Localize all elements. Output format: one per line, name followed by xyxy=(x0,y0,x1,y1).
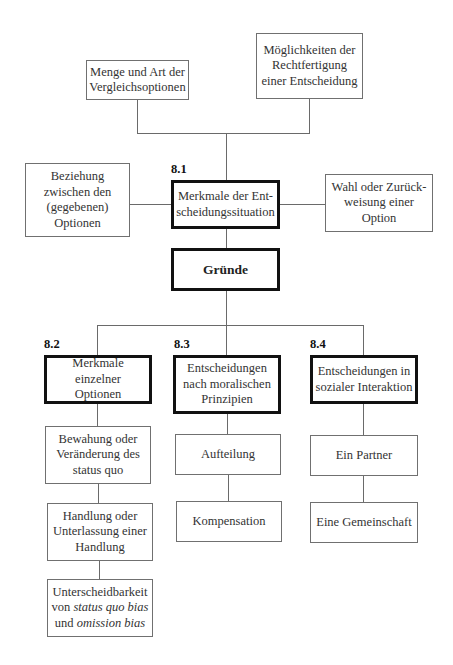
node-text: Bewahung oder xyxy=(56,432,140,448)
node-text: nach moralischen xyxy=(183,377,271,393)
node-text: Kompensation xyxy=(193,514,266,530)
connector xyxy=(226,133,227,180)
node-merkmale-entscheidungssituation: Merkmale der Ent- scheidungssituation xyxy=(171,180,280,229)
node-text: weisung einer xyxy=(332,195,427,211)
node-moralische-prinzipien: Entscheidungen nach moralischen Prinzipi… xyxy=(173,355,281,414)
connector xyxy=(97,325,98,355)
node-handlung-unterlassung: Handlung oder Unterlassung einer Handlun… xyxy=(47,503,153,561)
node-text: Handlung oder xyxy=(53,509,147,525)
node-text: zwischen den xyxy=(44,185,112,201)
node-ein-partner: Ein Partner xyxy=(310,435,418,476)
node-text: Merkmale einzelner xyxy=(49,356,147,387)
node-text: Unterscheidbarkeit xyxy=(52,585,149,601)
node-text: status quo xyxy=(56,463,140,479)
node-text: sozialer Interaktion xyxy=(316,380,413,396)
connector xyxy=(363,475,364,502)
node-text: Unterlassung einer xyxy=(53,524,147,540)
node-text: einer Entscheidung xyxy=(261,74,357,90)
section-label-8-3: 8.3 xyxy=(174,337,190,352)
node-text: Veränderung des xyxy=(56,447,140,463)
node-text: Vergleichsoptionen xyxy=(89,80,185,96)
section-label-8-2: 8.2 xyxy=(44,337,60,352)
node-text: Aufteilung xyxy=(201,447,255,463)
section-label-8-4: 8.4 xyxy=(310,337,326,352)
node-text-italic: status quo bias xyxy=(73,600,148,614)
node-text: Entscheidungen xyxy=(183,361,271,377)
node-text: (gegebenen) xyxy=(44,200,112,216)
node-text: scheidungssituation xyxy=(176,205,275,221)
node-text: von status quo bias xyxy=(52,600,149,616)
node-text: Möglichkeiten der xyxy=(261,43,357,59)
node-text: Wahl oder Zurück- xyxy=(332,180,427,196)
node-unterscheidbarkeit: Unterscheidbarkeit von status quo bias u… xyxy=(47,579,153,637)
connector xyxy=(97,325,364,326)
connector xyxy=(137,99,138,134)
node-text: Ein Partner xyxy=(336,448,393,464)
connector xyxy=(98,483,99,503)
node-text: Handlung xyxy=(53,540,147,556)
connector xyxy=(228,474,229,501)
node-text: Rechtfertigung xyxy=(261,58,357,74)
node-text: Eine Gemeinschaft xyxy=(316,515,411,531)
node-beziehung: Beziehung zwischen den (gegebenen) Optio… xyxy=(25,163,130,237)
connector xyxy=(137,133,310,134)
node-merkmale-einzelner-optionen: Merkmale einzelner Optionen xyxy=(44,355,152,404)
node-text: Entscheidungen in xyxy=(316,364,413,380)
node-soziale-interaktion: Entscheidungen in sozialer Interaktion xyxy=(310,355,418,404)
node-text: Gründe xyxy=(203,262,248,278)
section-label-8-1: 8.1 xyxy=(171,162,187,177)
node-menge-und-art: Menge und Art der Vergleichsoptionen xyxy=(86,60,189,100)
node-eine-gemeinschaft: Eine Gemeinschaft xyxy=(310,502,418,543)
node-text: und omission bias xyxy=(52,616,149,632)
connector xyxy=(227,413,228,434)
node-wahl-zurueckweisung: Wahl oder Zurück- weisung einer Option xyxy=(325,174,433,232)
node-text: Optionen xyxy=(49,387,147,403)
node-aufteilung: Aufteilung xyxy=(175,434,281,475)
connector xyxy=(226,228,227,248)
connector xyxy=(279,204,325,205)
node-text-italic: omission bias xyxy=(77,616,145,630)
connector xyxy=(129,204,171,205)
node-text: Prinzipien xyxy=(183,392,271,408)
node-text: Menge und Art der xyxy=(89,65,185,81)
node-text: Beziehung xyxy=(44,169,112,185)
node-rechtfertigung: Möglichkeiten der Rechtfertigung einer E… xyxy=(256,33,363,99)
connector xyxy=(309,98,310,134)
node-gruende: Gründe xyxy=(171,248,280,291)
connector xyxy=(97,403,98,426)
node-bewahung: Bewahung oder Veränderung des status quo xyxy=(45,426,151,484)
node-text-part: von xyxy=(52,600,74,614)
connector xyxy=(99,560,100,579)
node-text: Merkmale der Ent- xyxy=(176,189,275,205)
connector xyxy=(363,325,364,355)
node-text-part: und xyxy=(55,616,77,630)
connector xyxy=(363,403,364,435)
node-text: Option xyxy=(332,211,427,227)
connector xyxy=(226,325,227,355)
node-kompensation: Kompensation xyxy=(176,501,282,542)
connector xyxy=(226,290,227,326)
node-text: Optionen xyxy=(44,216,112,232)
